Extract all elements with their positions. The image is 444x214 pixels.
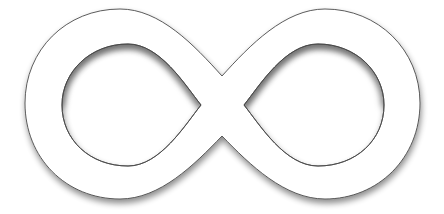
infinity-icon <box>0 0 444 214</box>
infinity-band <box>25 9 420 199</box>
image-canvas <box>0 0 444 214</box>
